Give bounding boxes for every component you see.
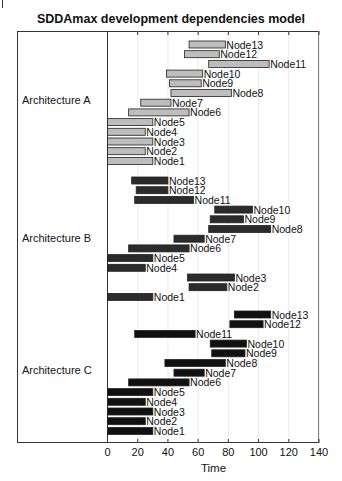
task-bar [135, 330, 195, 337]
task-bar [189, 41, 225, 48]
task-label: Node1 [154, 155, 185, 167]
task-label: Node8 [232, 87, 263, 99]
x-tick-label: 140 [310, 446, 328, 458]
task-bar [108, 119, 153, 126]
task-bar [129, 379, 189, 386]
task-label: Node1 [154, 425, 185, 437]
task-label: Node12 [220, 48, 257, 60]
task-bar [215, 206, 253, 213]
task-bar [136, 187, 168, 194]
task-label: Node6 [190, 242, 221, 254]
task-bar [234, 311, 270, 318]
x-tick-label: 0 [104, 446, 110, 458]
task-label: Node11 [270, 58, 306, 70]
task-bar [210, 216, 243, 223]
task-label: Node6 [190, 376, 221, 388]
task-bar [108, 148, 146, 155]
task-label: Node11 [196, 328, 232, 340]
task-bar [108, 293, 153, 300]
x-tick-label: 100 [249, 446, 267, 458]
task-bar [209, 226, 271, 233]
task-label: Node4 [146, 262, 177, 274]
task-bar [108, 398, 146, 405]
task-bar [230, 321, 263, 328]
task-label: Node6 [190, 106, 221, 118]
task-bar [108, 128, 146, 135]
task-bar [135, 196, 194, 203]
task-bar [188, 274, 235, 281]
x-tick-label: 60 [192, 446, 204, 458]
task-bar [212, 350, 245, 357]
task-label: Node9 [202, 77, 233, 89]
task-bar [132, 177, 168, 184]
task-bar [108, 157, 153, 164]
group-label: Architecture A [22, 94, 90, 106]
group-label: Architecture C [22, 364, 92, 376]
task-bar [174, 369, 204, 376]
x-axis-label: Time [0, 462, 342, 474]
x-tick-label: 40 [162, 446, 174, 458]
task-bar [166, 70, 202, 77]
task-label: Node11 [195, 194, 231, 206]
group-label: Architecture B [22, 232, 91, 244]
task-bar [129, 109, 189, 116]
task-bar [165, 360, 225, 367]
x-tick-label: 80 [222, 446, 234, 458]
task-bar [209, 60, 269, 67]
task-bar [108, 408, 153, 415]
x-tick-label: 20 [132, 446, 144, 458]
task-label: Node1 [154, 291, 185, 303]
task-bar [210, 340, 246, 347]
task-label: Node8 [272, 223, 303, 235]
task-bar [108, 264, 146, 271]
task-bar [185, 51, 220, 58]
task-bar [108, 418, 146, 425]
task-bar [174, 235, 204, 242]
task-label: Node12 [264, 318, 301, 330]
task-bar [169, 80, 201, 87]
task-bar [189, 284, 227, 291]
task-bar [171, 90, 231, 97]
task-bar [108, 389, 153, 396]
task-bar [141, 99, 171, 106]
task-label: Node2 [228, 281, 259, 293]
x-tick-label: 120 [280, 446, 298, 458]
task-bar [108, 427, 153, 434]
task-bar [108, 255, 153, 262]
task-bar [129, 245, 189, 252]
task-bar [108, 138, 153, 145]
